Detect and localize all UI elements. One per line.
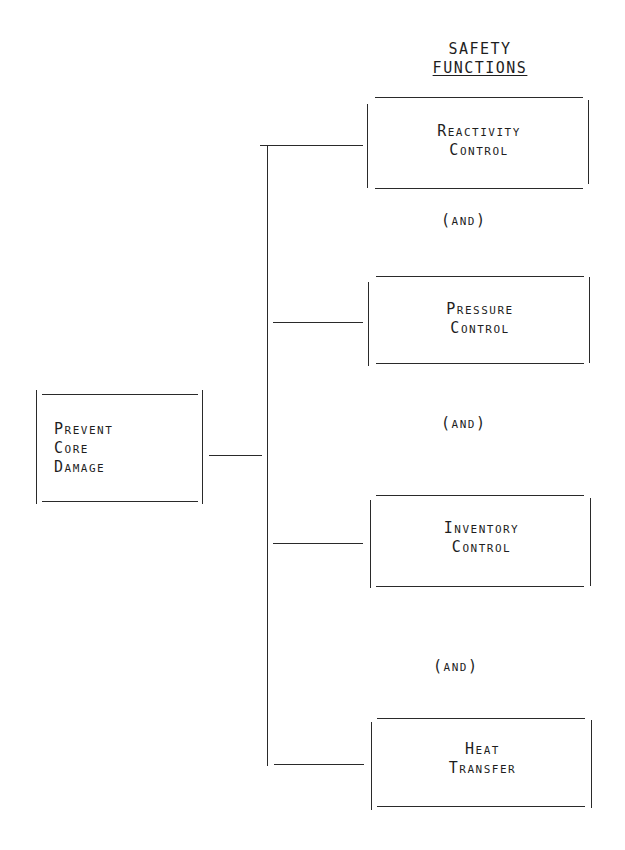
branch-pressure (273, 322, 363, 323)
prevent-core-damage-box: Prevent Core Damage (36, 390, 204, 504)
trunk-line (267, 146, 268, 766)
reactivity-line-1: Reactivity (367, 122, 591, 141)
pressure-control-box: Pressure Control (368, 276, 592, 367)
heat-line-2: Transfer (371, 759, 594, 778)
root-connector (209, 455, 262, 456)
reactivity-control-box: Reactivity Control (367, 97, 591, 191)
inventory-control-box: Inventory Control (370, 495, 593, 589)
reactivity-line-2: Control (367, 141, 591, 160)
header-line-1: SAFETY (400, 40, 560, 59)
and-label-3: (and) (433, 657, 478, 675)
heat-transfer-box: Heat Transfer (371, 718, 594, 809)
inventory-line-1: Inventory (370, 519, 593, 538)
branch-heat (274, 764, 364, 765)
safety-functions-header: SAFETY FUNCTIONS (400, 40, 560, 78)
inventory-line-2: Control (370, 538, 593, 557)
heat-line-1: Heat (371, 740, 594, 759)
branch-inventory (273, 543, 363, 544)
root-line-1: Prevent (54, 420, 113, 439)
header-line-2: FUNCTIONS (400, 59, 560, 78)
and-label-1: (and) (441, 211, 486, 229)
root-line-3: Damage (54, 458, 113, 477)
and-label-2: (and) (441, 414, 486, 432)
pressure-line-2: Control (368, 319, 592, 338)
pressure-line-1: Pressure (368, 300, 592, 319)
branch-reactivity (260, 145, 363, 146)
root-line-2: Core (54, 439, 113, 458)
